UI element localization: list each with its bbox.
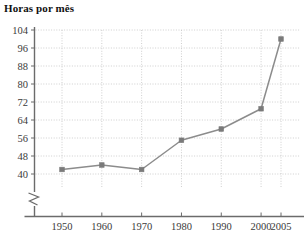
y-axis-tick-labels: 1049688807264564840: [12, 25, 29, 180]
y-tick-label: 48: [18, 151, 29, 162]
data-series-line: [62, 39, 281, 170]
y-tick-label: 96: [18, 43, 29, 54]
x-tick-label: 2005: [271, 221, 292, 232]
axis-break-zigzag: [29, 193, 39, 205]
data-point-marker: [179, 138, 184, 143]
y-tick-label: 88: [18, 61, 29, 72]
line-chart-plot: 1049688807264564840 19501960197019801990…: [0, 0, 307, 238]
axis-break-icon: [29, 193, 39, 205]
x-axis-tick-labels: 1950196019701980199020002005: [52, 221, 292, 232]
chart-container: Horas por mês 1049688807264564840 195019…: [0, 0, 307, 238]
y-tick-label: 40: [18, 169, 29, 180]
horizontal-gridlines: [36, 30, 301, 174]
chart-axes: [25, 27, 305, 217]
data-point-marker: [219, 127, 224, 132]
data-point-marker: [139, 167, 144, 172]
y-tick-label: 80: [18, 79, 29, 90]
x-tick-label: 1990: [211, 221, 232, 232]
data-point-marker: [60, 167, 65, 172]
x-tick-label: 1980: [171, 221, 192, 232]
data-point-markers: [60, 37, 284, 172]
x-tick-label: 1950: [52, 221, 73, 232]
y-tick-label: 64: [18, 115, 29, 126]
y-tick-label: 56: [18, 133, 29, 144]
y-tick-label: 72: [18, 97, 29, 108]
data-point-marker: [100, 163, 105, 168]
x-tick-label: 1970: [131, 221, 152, 232]
y-tick-label: 104: [12, 25, 29, 36]
x-tick-label: 2000: [251, 221, 272, 232]
data-point-marker: [279, 37, 284, 42]
data-point-marker: [259, 106, 264, 111]
series-line: [62, 39, 281, 170]
x-tick-label: 1960: [91, 221, 112, 232]
vertical-gridlines: [62, 30, 281, 188]
